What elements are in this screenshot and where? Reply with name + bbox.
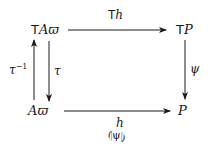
- varpi-symbol: ϖ: [48, 22, 59, 37]
- node-bottom-right: P: [178, 104, 187, 117]
- functor-t: T: [176, 22, 184, 37]
- node-top-right: TP: [176, 23, 193, 36]
- functor-t: T: [31, 22, 39, 37]
- inverse-exponent: −1: [16, 62, 28, 71]
- object-p: P: [178, 103, 187, 118]
- label-right-arrow: ψ: [190, 63, 199, 75]
- label-bottom-arrow: h: [116, 117, 124, 129]
- varpi-symbol: ϖ: [37, 103, 48, 118]
- tau-symbol: τ: [54, 64, 61, 78]
- label-top-arrow: Th: [108, 9, 123, 21]
- morphism-h: h: [116, 116, 124, 130]
- morphism-h: h: [115, 8, 123, 22]
- label-bottom-arrow-fold: ⦇ψ⦈: [108, 130, 125, 141]
- object-a: A: [39, 22, 48, 37]
- node-bottom-left: Aϖ: [28, 104, 48, 117]
- node-top-left: TAϖ: [31, 23, 59, 36]
- object-a: A: [28, 103, 37, 118]
- psi-symbol: ψ: [190, 62, 199, 76]
- label-left-down-arrow: τ: [54, 65, 61, 77]
- object-p: P: [184, 22, 193, 37]
- tau-symbol: τ: [9, 63, 16, 77]
- label-left-up-arrow: τ−1: [9, 63, 27, 76]
- fold-psi: ⦇ψ⦈: [108, 129, 125, 142]
